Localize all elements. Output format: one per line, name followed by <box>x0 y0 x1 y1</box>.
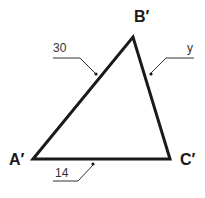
side-bc-leader-dot <box>149 72 152 75</box>
side-ac-annotation: 14 <box>53 162 95 181</box>
side-ab-leader-dot <box>94 72 97 75</box>
vertex-label-b: B′ <box>134 8 150 25</box>
side-bc-annotation: y <box>149 41 194 76</box>
side-bc-leader-line <box>151 58 194 73</box>
side-ac-label: 14 <box>55 166 69 180</box>
triangle-diagram: B′ A′ C′ 30 y 14 <box>0 0 205 198</box>
side-ab-leader-line <box>53 58 96 74</box>
side-ac-leader-dot <box>91 162 94 165</box>
side-ab-annotation: 30 <box>53 41 98 76</box>
triangle-shape <box>33 37 170 159</box>
vertex-label-a: A′ <box>9 151 25 168</box>
vertex-label-c: C′ <box>180 151 196 168</box>
side-ab-label: 30 <box>53 41 67 55</box>
side-bc-label: y <box>187 41 193 55</box>
